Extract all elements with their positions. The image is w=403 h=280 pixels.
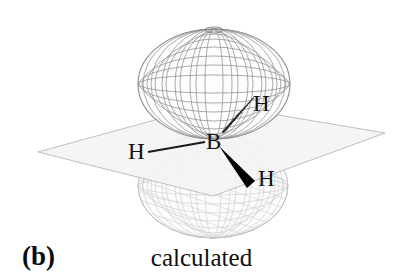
orbital-3d-scene bbox=[0, 0, 403, 280]
atom-label-hydrogen-lower-right: H bbox=[258, 167, 275, 190]
atom-label-hydrogen-left: H bbox=[128, 140, 145, 163]
orbital-upper-lobe bbox=[138, 27, 290, 139]
figure-panel-b: B H H H (b) calculated bbox=[0, 0, 403, 280]
figure-caption: calculated bbox=[0, 245, 403, 270]
atom-label-boron: B bbox=[206, 130, 221, 153]
atom-label-hydrogen-upper-right: H bbox=[253, 92, 270, 115]
